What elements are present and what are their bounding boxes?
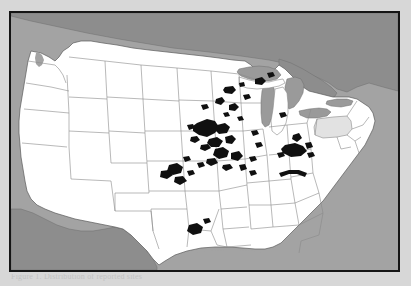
map-figure-page: Figure 1. Distribution of reported sites bbox=[0, 0, 411, 286]
figure-caption-strip: Figure 1. Distribution of reported sites bbox=[11, 274, 391, 286]
map-frame bbox=[9, 11, 400, 272]
figure-caption: Figure 1. Distribution of reported sites bbox=[11, 274, 142, 282]
usa-distribution-map bbox=[11, 13, 398, 270]
state-pennsylvania-tinted bbox=[314, 116, 352, 138]
